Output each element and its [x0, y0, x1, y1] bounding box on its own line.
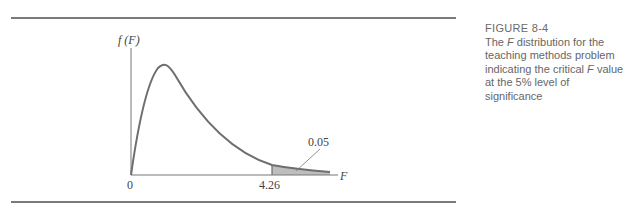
tail-area-label: 0.05 — [308, 135, 329, 149]
figure-caption: FIGURE 8-4 The F distribution for the te… — [485, 22, 625, 103]
annotation-leader — [296, 149, 320, 171]
caption-part: The — [485, 36, 507, 48]
x-axis-label: F — [339, 169, 348, 183]
caption-italic-f: F — [507, 36, 514, 48]
density-curve — [131, 65, 330, 175]
figure-number: FIGURE 8-4 — [485, 22, 625, 36]
critical-tick-label: 4.26 — [259, 178, 280, 192]
origin-tick-label: 0 — [127, 178, 133, 192]
caption-italic-f: F — [587, 63, 594, 75]
y-axis-label: f (F) — [118, 33, 140, 47]
caption-text: The F distribution for the teaching meth… — [485, 36, 625, 104]
